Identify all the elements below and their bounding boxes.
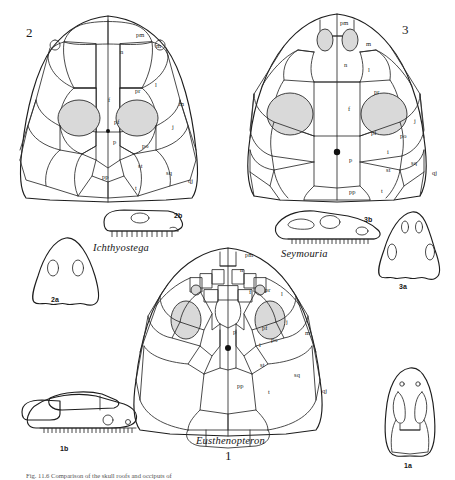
bone-label-eusthenopteron-po: po — [271, 337, 278, 344]
bone-label-ichthyostega-sq: sq — [166, 170, 172, 177]
occipital-opening-lower-left — [388, 244, 397, 260]
tooth-row — [112, 231, 172, 237]
eusthenopteron-skull-roof — [134, 248, 322, 448]
bone-label-seymouria-m: m — [366, 41, 371, 48]
occipital-opening-left — [48, 260, 59, 276]
ichthyostega-lateral-view — [104, 210, 183, 237]
panel-number-3: 3 — [402, 22, 409, 38]
pineal-foramen — [106, 129, 110, 133]
orbit-right — [361, 93, 407, 135]
bone-label-eusthenopteron-p: p — [233, 329, 236, 336]
taxon-name-seymouria: Seymouria — [281, 248, 328, 259]
pineal-foramen — [334, 149, 340, 155]
naris-right — [255, 285, 265, 295]
occipital-opening-upper-left — [402, 221, 409, 233]
bone-label-seymouria-p: p — [349, 157, 352, 164]
subpanel-label-3b: 3b — [364, 216, 372, 223]
taxon-name-ichthyostega: Ichthyostega — [93, 242, 149, 253]
bone-label-seymouria-f: f — [348, 106, 350, 113]
bone-label-ichthyostega-pf: pf — [114, 119, 120, 126]
subpanel-label-2b: 2b — [174, 212, 182, 219]
bone-label-eusthenopteron-pf: pf — [262, 325, 268, 332]
panel-number-1: 1 — [225, 448, 232, 464]
bone-label-eusthenopteron-sq: sq — [294, 372, 300, 379]
bone-label-seymouria-l: l — [368, 67, 370, 74]
bone-label-seymouria-qj: qj — [432, 170, 437, 177]
subpanel-label-2a: 2a — [51, 296, 59, 303]
lateral-orbit — [131, 213, 149, 223]
bone-label-eusthenopteron-j: j — [286, 319, 288, 326]
bone-label-ichthyostega-m: m — [179, 101, 184, 108]
bone-label-eusthenopteron-t: t — [268, 389, 270, 396]
bone-label-seymouria-pp: pp — [349, 189, 356, 196]
figure-caption: Fig. 11.6 Comparison of the skull roofs … — [26, 472, 446, 480]
eusthenopteron-occipital-view — [385, 368, 435, 456]
occipital-opening-right — [73, 260, 84, 276]
seymouria-occipital-view — [379, 212, 440, 279]
bone-label-seymouria-n: n — [344, 62, 347, 69]
panel-number-2: 2 — [26, 25, 33, 41]
bone-label-eusthenopteron-qj: qj — [322, 388, 327, 395]
eusthenopteron-lateral-view — [22, 392, 137, 433]
bone-label-eusthenopteron-m: m — [305, 330, 310, 337]
bone-label-eusthenopteron-pr: pr — [265, 287, 271, 294]
bone-label-ichthyostega-pp: pp — [102, 174, 109, 181]
subpanel-label-3a: 3a — [399, 283, 407, 290]
occipital-foramen-right — [416, 382, 420, 386]
lateral-foramen — [126, 420, 131, 425]
bone-label-ichthyostega-m: m — [156, 43, 161, 50]
bone-label-seymouria-pf: pf — [371, 130, 377, 137]
bone-label-ichthyostega-l: l — [155, 82, 157, 89]
bone-label-seymouria-st: st — [386, 167, 391, 174]
orbit-right — [116, 100, 158, 136]
bone-label-eusthenopteron-pm: pm — [245, 252, 254, 259]
pineal-foramen — [225, 345, 231, 351]
bone-label-ichthyostega-f: f — [108, 97, 110, 104]
bone-label-seymouria-pm: pm — [340, 20, 349, 27]
taxon-name-eusthenopteron: Eusthenopteron — [196, 435, 265, 446]
bone-label-seymouria-po: po — [400, 133, 407, 140]
subpanel-label-1a: 1a — [404, 462, 412, 469]
orbit-left — [58, 100, 100, 136]
ichthyostega-occipital-view — [33, 238, 99, 305]
bone-label-ichthyostega-pr: pr — [135, 88, 141, 95]
bone-label-eusthenopteron-n: n — [240, 267, 243, 274]
bone-label-eusthenopteron-pp: pp — [237, 383, 244, 390]
figure-plate: 2 3 1 Ichthyostega Seymouria Eusthenopte… — [0, 0, 455, 480]
bone-label-seymouria-t: t — [381, 188, 383, 195]
bone-label-seymouria-pr: pr — [374, 89, 380, 96]
bone-label-eusthenopteron-i: i — [259, 342, 261, 349]
naris-right — [342, 29, 358, 51]
bone-label-eusthenopteron-f: f — [249, 289, 251, 296]
bone-label-ichthyostega-p: p — [113, 139, 116, 146]
tooth-row — [44, 428, 132, 433]
bone-label-eusthenopteron-l: l — [281, 291, 283, 298]
bone-label-ichthyostega-t: t — [135, 185, 137, 192]
naris-left — [191, 285, 201, 295]
bone-label-ichthyostega-n: n — [120, 49, 123, 56]
lateral-orbit — [320, 216, 340, 229]
bone-label-ichthyostega-st: st — [138, 163, 143, 170]
bone-label-ichthyostega-pm: pm — [136, 32, 145, 39]
bone-label-ichthyostega-qj: qj — [188, 178, 193, 185]
tooth-row — [292, 239, 368, 244]
bone-label-eusthenopteron-st: st — [260, 362, 265, 369]
bone-label-seymouria-j: j — [414, 118, 416, 125]
naris-left — [317, 29, 333, 51]
seymouria-skull-roof — [248, 14, 426, 202]
lateral-fenestra — [356, 227, 368, 235]
occipital-foramen-left — [400, 382, 404, 386]
skull-diagrams — [0, 0, 455, 480]
orbit-left — [267, 93, 313, 135]
lateral-fenestra — [103, 415, 113, 425]
bone-label-seymouria-sq: sq — [411, 160, 417, 167]
bone-label-ichthyostega-po: po — [142, 143, 149, 150]
subpanel-label-1b: 1b — [60, 445, 68, 452]
occipital-opening-upper-right — [416, 221, 423, 233]
occipital-opening-lower-right — [426, 244, 435, 260]
bone-label-ichthyostega-j: j — [172, 124, 174, 131]
bone-label-seymouria-i: i — [387, 149, 389, 156]
